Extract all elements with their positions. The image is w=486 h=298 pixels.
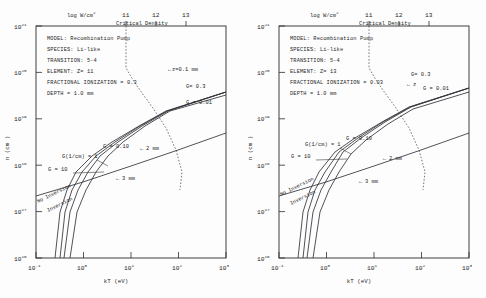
arrow-depth-2: ← bbox=[383, 156, 387, 162]
x-tick-labels: 10-1 100 101 102 103 bbox=[271, 263, 472, 272]
svg-text:100: 100 bbox=[320, 263, 330, 272]
top-axis-label: log W/cm2 bbox=[310, 10, 339, 19]
y-tick-exponent: 19 bbox=[21, 114, 27, 119]
annotation-depth-3: 3 mm bbox=[122, 176, 135, 182]
x-tick-exponent: 0 bbox=[327, 263, 330, 268]
top-tick-label: 12 bbox=[152, 12, 160, 19]
annotation-gain-10: G = 10 bbox=[48, 167, 67, 173]
parameter-block: MODEL: Recombination Pump SPECIES: Li-li… bbox=[47, 36, 137, 97]
gain-curve-1 bbox=[60, 92, 226, 258]
annotation-depth-2: 2 mm bbox=[389, 156, 402, 162]
y-tick-exponent: 18 bbox=[264, 161, 270, 166]
x-tick-exponent: -1 bbox=[35, 263, 41, 268]
arrow-depth-0p1: ← bbox=[407, 82, 411, 88]
param-line: FRACTIONAL IONIZATION = 0.3 bbox=[47, 80, 137, 86]
param-line: TRANSITION: 5-4 bbox=[290, 58, 340, 64]
gain-curve-0p10 bbox=[64, 92, 226, 258]
svg-text:102: 102 bbox=[172, 263, 182, 272]
svg-text:101: 101 bbox=[367, 263, 377, 272]
svg-text:10-1: 10-1 bbox=[271, 263, 284, 272]
gain-curve-0p10 bbox=[307, 88, 469, 258]
param-line: DEPTH = 1.0 mm bbox=[47, 91, 94, 97]
param-line: MODEL: Recombination Pump bbox=[47, 36, 130, 42]
param-line: DEPTH = 1.0 mm bbox=[290, 91, 337, 97]
param-line: ELEMENT: Z= 13 bbox=[290, 69, 337, 75]
x-tick-exponent: 2 bbox=[179, 263, 182, 268]
figure-sheet: 10-1 100 101 102 103 kT (eV) 1021 1020 1… bbox=[0, 0, 486, 298]
y-tick-exponent: 20 bbox=[264, 68, 270, 73]
y-tick-labels: 1021 1020 1019 1018 1017 1016 bbox=[14, 22, 27, 263]
svg-text:1019: 1019 bbox=[257, 114, 270, 123]
param-line: ELEMENT: Z= 11 bbox=[47, 69, 94, 75]
annotation-depth-3: 3 mm bbox=[365, 179, 378, 185]
x-tick-exponent: 3 bbox=[226, 263, 229, 268]
x-tick-labels: 10-1 100 101 102 103 bbox=[28, 263, 229, 272]
x-tick-exponent: -1 bbox=[278, 263, 284, 268]
svg-text:103: 103 bbox=[462, 263, 472, 272]
annotation-gain-0p3: G= 0.3 bbox=[186, 84, 205, 90]
param-line: FRACTIONAL IONIZATION = 0.03 bbox=[290, 80, 383, 86]
gain-curve-1 bbox=[303, 88, 469, 258]
x-tick-exponent: 3 bbox=[469, 263, 472, 268]
top-tick-label: 11 bbox=[365, 12, 373, 19]
param-line: SPECIES: Li-like bbox=[47, 47, 100, 53]
annotation-gain-0p01: G = 0.01 bbox=[423, 86, 449, 92]
x-axis-label: kT (eV) bbox=[104, 278, 128, 285]
y-axis-ticks bbox=[279, 26, 285, 258]
x-tick-exponent: 2 bbox=[422, 263, 425, 268]
svg-text:1017: 1017 bbox=[14, 207, 27, 216]
annotation-gain-0p3: G= 0.3 bbox=[411, 72, 430, 78]
y-axis-label: n (cm ) bbox=[247, 136, 254, 160]
top-tick-label: 13 bbox=[425, 12, 433, 19]
x-axis-label: kT (eV) bbox=[347, 278, 371, 285]
svg-text:1020: 1020 bbox=[257, 68, 270, 77]
y-axis-label: n (cm ) bbox=[4, 136, 11, 160]
y-tick-exponent: 21 bbox=[264, 22, 270, 27]
y-tick-exponent: 17 bbox=[264, 207, 270, 212]
y-axis-ticks bbox=[36, 26, 42, 258]
critical-density-label: Critical Density bbox=[116, 21, 169, 27]
svg-text:101: 101 bbox=[124, 263, 134, 272]
param-line: TRANSITION: 5-4 bbox=[47, 58, 97, 64]
gain-curve-10 bbox=[298, 88, 469, 258]
param-line: MODEL: Recombination Pump bbox=[290, 36, 373, 42]
svg-text:1018: 1018 bbox=[14, 161, 27, 170]
annotation-gain-0p01: G = 0.01 bbox=[186, 100, 212, 106]
svg-text:1016: 1016 bbox=[257, 254, 270, 263]
svg-text:10-1: 10-1 bbox=[28, 263, 41, 272]
y-tick-exponent: 16 bbox=[264, 254, 270, 259]
x-tick-exponent: 0 bbox=[84, 263, 87, 268]
annotation-depth-0p1: z bbox=[413, 82, 416, 88]
plot-svg-right: 10-1 100 101 102 103 kT (eV) 1021 1020 1… bbox=[243, 0, 486, 298]
annotation-depth-2: 2 mm bbox=[146, 146, 159, 152]
svg-text:1020: 1020 bbox=[14, 68, 27, 77]
annotation-gain-0p10: G = 0.10 bbox=[346, 136, 372, 142]
arrow-depth-2: ← bbox=[140, 146, 144, 152]
gain-curve-0p01 bbox=[70, 95, 226, 258]
gain-curves bbox=[55, 92, 226, 258]
y-tick-exponent: 20 bbox=[21, 68, 27, 73]
annotation-gain-10: G = 10 bbox=[291, 154, 310, 160]
svg-text:1018: 1018 bbox=[257, 161, 270, 170]
svg-text:102: 102 bbox=[415, 263, 425, 272]
annotation-gain-unit: G(1/cm) = 1 bbox=[62, 154, 98, 160]
critical-density-label: Critical Density bbox=[359, 21, 412, 27]
top-tick-label: 13 bbox=[182, 12, 190, 19]
y-tick-exponent: 21 bbox=[21, 22, 27, 27]
param-line: SPECIES: Li-like bbox=[290, 47, 343, 53]
y-tick-exponent: 18 bbox=[21, 161, 27, 166]
x-tick-exponent: 1 bbox=[374, 263, 377, 268]
y-tick-exponent: 17 bbox=[21, 207, 27, 212]
arrow-depth-3: ← bbox=[359, 179, 363, 185]
top-tick-label: 11 bbox=[122, 12, 130, 19]
plot-svg-left: 10-1 100 101 102 103 kT (eV) 1021 1020 1… bbox=[0, 0, 243, 298]
svg-text:1021: 1021 bbox=[257, 22, 270, 31]
x-tick-exponent: 1 bbox=[131, 263, 134, 268]
annotation-depth-0p1: z=0.1 mm bbox=[172, 67, 198, 73]
curve-annotations: z=0.1 mm ← G= 0.3 G = 0.01 G = 0.10 2 mm… bbox=[36, 67, 212, 214]
svg-text:1016: 1016 bbox=[14, 254, 27, 263]
chart-panel-left: 10-1 100 101 102 103 kT (eV) 1021 1020 1… bbox=[0, 0, 243, 298]
y-tick-exponent: 19 bbox=[264, 114, 270, 119]
top-tick-labels: 11 12 13 bbox=[365, 12, 433, 19]
chart-panel-right: 10-1 100 101 102 103 kT (eV) 1021 1020 1… bbox=[243, 0, 486, 298]
